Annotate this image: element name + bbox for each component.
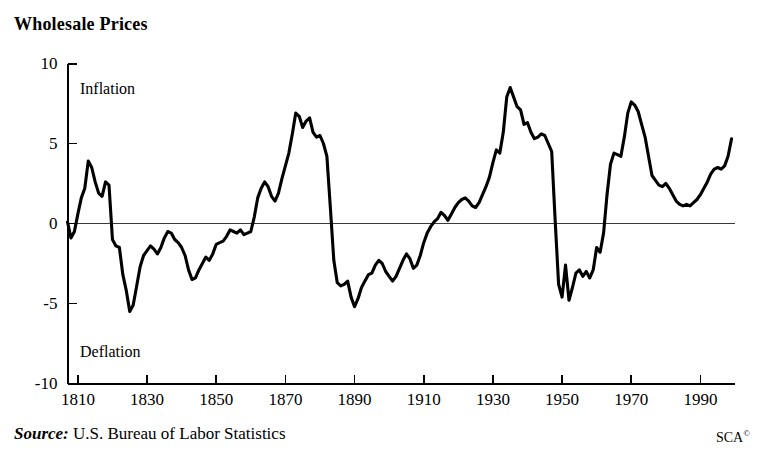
x-axis-tick-label: 1910: [389, 391, 459, 408]
y-axis-tick-label: 10: [14, 55, 58, 72]
x-axis-tick-label: 1890: [320, 391, 390, 408]
credit-text: SCA: [716, 430, 743, 445]
x-axis-tick-label: 1830: [112, 391, 182, 408]
x-axis-tick-label: 1950: [527, 391, 597, 408]
source-text: U.S. Bureau of Labor Statistics: [69, 424, 286, 443]
x-axis-tick-label: 1850: [181, 391, 251, 408]
x-axis-tick-label: 1930: [458, 391, 528, 408]
x-axis-tick-label: 1970: [596, 391, 666, 408]
source-note: Source: U.S. Bureau of Labor Statistics: [14, 424, 286, 444]
x-axis-tick-label: 1810: [43, 391, 113, 408]
wholesale-prices-figure: Wholesale Prices 1050-5-10 1810183018501…: [0, 0, 764, 470]
y-axis-tick-label: 5: [14, 135, 58, 152]
y-axis-tick-label: 0: [14, 215, 58, 232]
y-axis-tick-label: -5: [14, 295, 58, 312]
x-axis-tick-label: 1990: [665, 391, 735, 408]
deflation-zone-label: Deflation: [80, 344, 140, 360]
inflation-zone-label: Inflation: [80, 81, 135, 97]
credit-note: SCA©: [716, 428, 750, 446]
y-axis-ticks: [68, 144, 77, 384]
source-label: Source:: [14, 424, 69, 443]
x-axis-tick-label: 1870: [250, 391, 320, 408]
copyright-icon: ©: [743, 428, 750, 438]
axis-group: [68, 64, 736, 384]
inflation-series-line: [68, 88, 732, 312]
y-axis-tick-label: -10: [14, 375, 58, 392]
x-axis-ticks: [78, 375, 701, 384]
